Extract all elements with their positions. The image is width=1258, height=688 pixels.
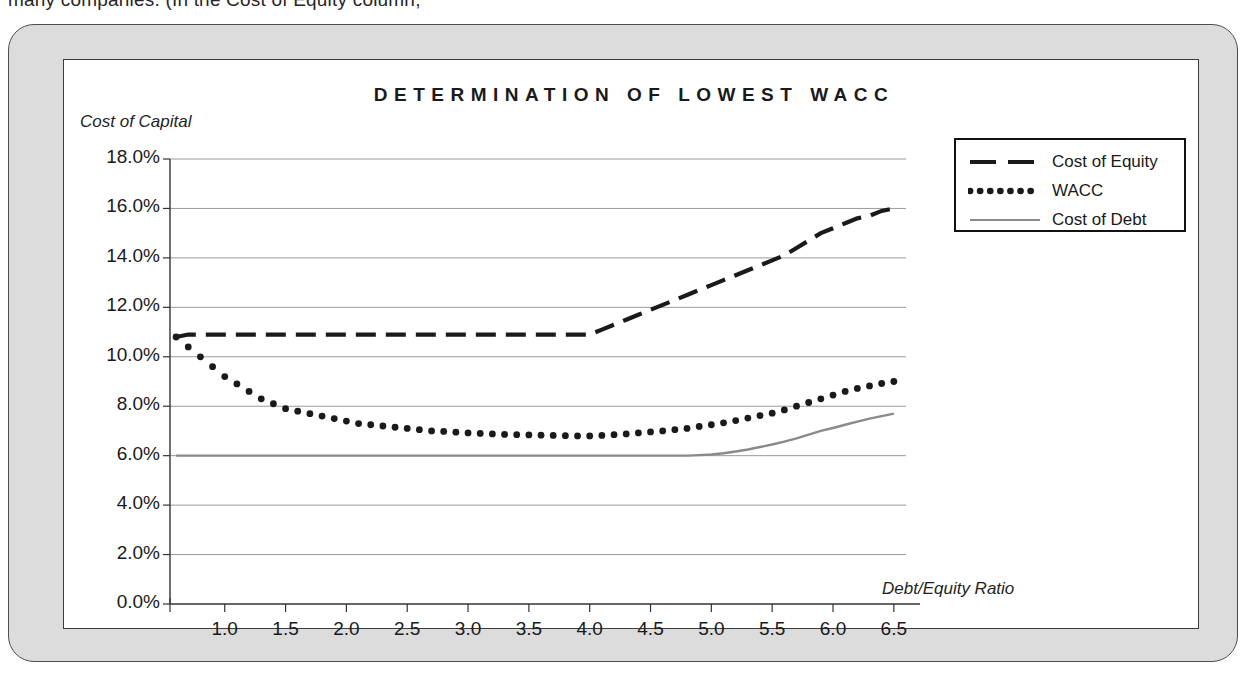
- data-point: [562, 432, 569, 439]
- data-point: [708, 421, 715, 428]
- page-text-fragment: many companies. (In the Cost of Equity c…: [0, 0, 1258, 14]
- y-tick-label: 10.0%: [70, 344, 160, 366]
- chart-inner-panel: DETERMINATION OF LOWEST WACC Cost of Cap…: [63, 59, 1199, 629]
- y-tick-label: 2.0%: [70, 542, 160, 564]
- data-point: [598, 432, 605, 439]
- data-point: [684, 425, 691, 432]
- x-tick-label: 5.5: [742, 618, 802, 640]
- data-point: [538, 432, 545, 439]
- data-point: [416, 426, 423, 433]
- data-point: [769, 410, 776, 417]
- data-point: [635, 430, 642, 437]
- x-tick-label: 6.0: [803, 618, 863, 640]
- data-point: [720, 419, 727, 426]
- data-point: [513, 431, 520, 438]
- data-point: [854, 385, 861, 392]
- series-cost-of-debt: [176, 414, 894, 456]
- x-tick-label: 6.5: [864, 618, 924, 640]
- data-point: [452, 429, 459, 436]
- data-point: [550, 432, 557, 439]
- legend-item[interactable]: Cost of Equity: [956, 146, 1188, 177]
- y-tick-label: 6.0%: [70, 443, 160, 465]
- y-tick-label: 0.0%: [70, 591, 160, 613]
- data-point: [197, 353, 204, 360]
- data-point: [258, 395, 265, 402]
- legend-label: Cost of Debt: [1052, 210, 1147, 230]
- x-tick-label: 3.5: [499, 618, 559, 640]
- data-point: [781, 407, 788, 414]
- chart-legend: Cost of EquityWACCCost of Debt: [954, 138, 1186, 232]
- y-tick-label: 18.0%: [70, 146, 160, 168]
- data-point: [246, 388, 253, 395]
- page-text-fragment-label: many companies. (In the Cost of Equity c…: [8, 0, 421, 10]
- x-tick-label: 1.5: [256, 618, 316, 640]
- legend-label: WACC: [1052, 181, 1103, 201]
- data-point: [878, 380, 885, 387]
- data-point: [477, 430, 484, 437]
- chart-outer-frame: DETERMINATION OF LOWEST WACC Cost of Cap…: [8, 24, 1238, 662]
- data-point: [830, 392, 837, 399]
- data-point: [209, 363, 216, 370]
- data-point: [489, 431, 496, 438]
- data-point: [744, 415, 751, 422]
- legend-label: Cost of Equity: [1052, 152, 1158, 172]
- data-point: [319, 413, 326, 420]
- data-point: [647, 429, 654, 436]
- x-tick-label: 4.0: [560, 618, 620, 640]
- data-point: [696, 423, 703, 430]
- data-point: [842, 388, 849, 395]
- y-axis-title: Cost of Capital: [80, 112, 192, 132]
- data-point: [793, 403, 800, 410]
- data-point: [428, 428, 435, 435]
- x-tick-label: 4.5: [621, 618, 681, 640]
- x-tick-label: 3.0: [438, 618, 498, 640]
- y-tick-label: 14.0%: [70, 245, 160, 267]
- data-point: [465, 430, 472, 437]
- data-point: [270, 400, 277, 407]
- page-root: many companies. (In the Cost of Equity c…: [0, 0, 1258, 688]
- y-tick-label: 4.0%: [70, 492, 160, 514]
- data-point: [367, 421, 374, 428]
- data-point: [307, 410, 314, 417]
- data-point: [866, 383, 873, 390]
- series-cost-of-equity: [176, 208, 894, 337]
- data-point: [404, 425, 411, 432]
- series-wacc: [173, 334, 898, 440]
- data-point: [757, 412, 764, 419]
- data-point: [623, 431, 630, 438]
- x-tick-label: 1.0: [195, 618, 255, 640]
- data-point: [817, 395, 824, 402]
- data-point: [890, 378, 897, 385]
- legend-swatch-dotted-icon: [968, 180, 1042, 202]
- data-point: [331, 415, 338, 422]
- data-point: [185, 343, 192, 350]
- y-tick-label: 12.0%: [70, 294, 160, 316]
- legend-item[interactable]: Cost of Debt: [956, 204, 1188, 235]
- data-point: [440, 428, 447, 435]
- data-point: [392, 424, 399, 431]
- data-point: [586, 432, 593, 439]
- x-axis-title: Debt/Equity Ratio: [882, 579, 1014, 599]
- legend-swatch-dashed-icon: [968, 151, 1042, 173]
- legend-item[interactable]: WACC: [956, 175, 1188, 206]
- data-point: [343, 418, 350, 425]
- data-point: [282, 405, 289, 412]
- data-point: [525, 432, 532, 439]
- data-point: [611, 431, 618, 438]
- legend-swatch-solid-icon: [968, 209, 1042, 231]
- data-point: [805, 399, 812, 406]
- data-point: [173, 334, 180, 341]
- data-point: [355, 420, 362, 427]
- data-point: [221, 373, 228, 380]
- x-tick-label: 5.0: [681, 618, 741, 640]
- data-point: [732, 417, 739, 424]
- x-tick-label: 2.5: [377, 618, 437, 640]
- data-point: [379, 423, 386, 430]
- x-tick-label: 2.0: [316, 618, 376, 640]
- data-point: [671, 426, 678, 433]
- chart-title: DETERMINATION OF LOWEST WACC: [284, 84, 984, 106]
- data-point: [294, 408, 301, 415]
- y-tick-label: 16.0%: [70, 195, 160, 217]
- chart-surface: DETERMINATION OF LOWEST WACC Cost of Cap…: [64, 60, 1200, 630]
- data-point: [659, 428, 666, 435]
